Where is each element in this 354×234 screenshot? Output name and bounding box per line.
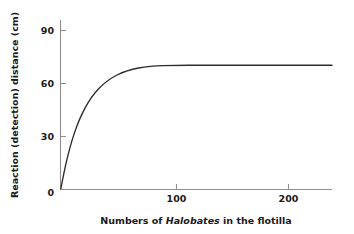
y-tick-label-0: 0 [47,187,54,198]
y-tick-label-60: 60 [41,78,55,89]
y-tick-label-90: 90 [41,25,55,36]
x-axis-title-after: in the flotilla [220,215,292,226]
chart-figure: 90 60 30 0 100 200 Reaction (detection) … [0,0,354,234]
x-axis-title-before: Numbers of [100,215,165,226]
y-axis-title: Reaction (detection) distance (cm) [9,12,20,198]
reaction-distance-line-chart: 90 60 30 0 100 200 Reaction (detection) … [0,0,354,234]
y-tick-label-30: 30 [41,131,55,142]
data-curve-reaction-distance [61,65,332,189]
x-axis-title-genus: Halobates [166,215,220,226]
x-tick-label-100: 100 [167,193,187,204]
x-axis-title: Numbers of Halobates in the flotilla [100,215,291,226]
x-tick-label-200: 200 [279,193,299,204]
